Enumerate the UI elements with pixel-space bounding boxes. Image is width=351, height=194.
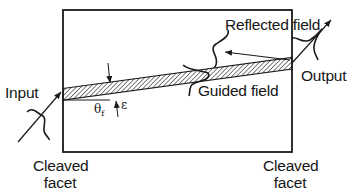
output-wave-icon [292,29,322,60]
output-label: Output [301,68,346,84]
cleaved-facet-left-label: Cleaved facet [33,158,87,191]
width-arrow-bottom-icon [116,101,118,117]
reflected-arrow-icon [225,52,290,60]
reflected-field-label: Reflected field [225,17,320,33]
cleaved-facet-right-label: Cleaved facet [263,158,317,191]
input-label: Input [5,85,38,101]
epsilon-label: ε [121,99,127,111]
cleaved-facet-right-line1: Cleaved [263,158,317,174]
theta-subscript: f [101,109,104,118]
reflected-wave-icon [213,30,228,68]
theta-f-label: θf [94,103,104,120]
cleaved-facet-right-line2: facet [263,175,317,191]
guided-field-label: Guided field [198,83,278,99]
cleaved-facet-left-line1: Cleaved [33,158,87,174]
cleaved-facet-left-line2: facet [33,175,87,191]
input-wave-icon [27,110,49,140]
width-arrow-top-icon [108,63,110,83]
